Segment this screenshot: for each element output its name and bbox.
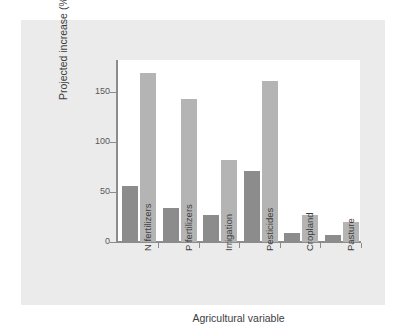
x-category-label: N fertilizers: [143, 203, 153, 251]
y-tick-mark: [110, 242, 116, 243]
x-category-label: P fertilizers: [184, 204, 194, 251]
bar: [203, 215, 219, 242]
bar: [325, 235, 341, 242]
x-category-label: Irrigation: [224, 214, 234, 251]
y-tick-label: 0: [80, 237, 110, 246]
x-tick-mark: [361, 243, 362, 248]
x-category-label: Pasture: [346, 218, 356, 251]
x-axis-title: Agricultural variable: [117, 312, 360, 324]
x-tick-mark: [320, 243, 321, 248]
y-tick-label-wrap: 0: [76, 237, 110, 246]
bar: [163, 208, 179, 242]
y-tick-label: 50: [80, 187, 110, 196]
y-axis-title: Projected increase (%): [57, 0, 69, 100]
y-tick-mark: [110, 192, 116, 193]
chart-panel: 050100150 N fertilizersP fertilizersIrri…: [21, 20, 385, 305]
x-tick-mark: [239, 243, 240, 248]
bar: [244, 171, 260, 242]
figure-canvas: 050100150 N fertilizersP fertilizersIrri…: [0, 0, 406, 325]
x-category-label: Pesticides: [265, 208, 275, 251]
y-tick-label-wrap: 50: [76, 187, 110, 196]
x-category-label: Cropland: [305, 212, 315, 251]
y-tick-label-wrap: 100: [76, 137, 110, 146]
y-tick-mark: [110, 92, 116, 93]
bar-group: [325, 60, 359, 242]
y-tick-label-wrap: 150: [76, 87, 110, 96]
y-tick-label: 100: [80, 137, 110, 146]
x-tick-mark: [199, 243, 200, 248]
bar: [284, 233, 300, 242]
x-tick-mark: [158, 243, 159, 248]
bar: [122, 186, 138, 242]
bars-layer: [117, 60, 360, 242]
y-tick-label: 150: [80, 87, 110, 96]
y-tick-mark: [110, 142, 116, 143]
x-tick-mark: [280, 243, 281, 248]
